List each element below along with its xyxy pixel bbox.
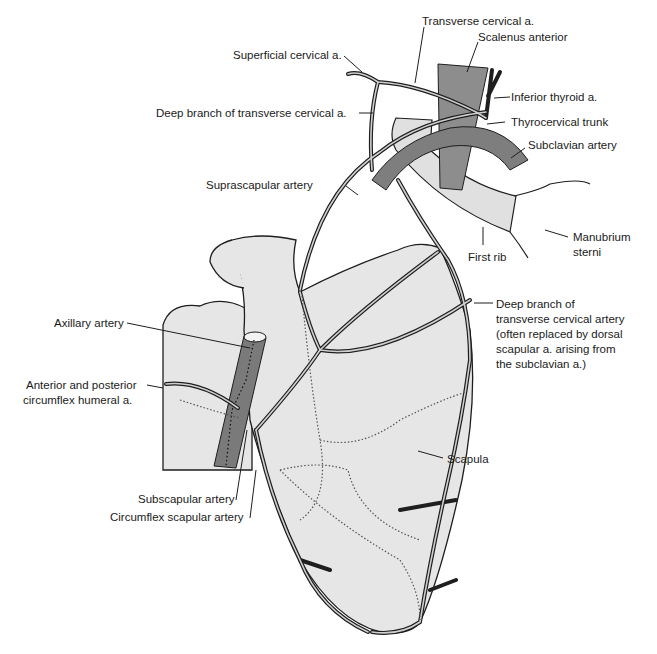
label-deep-branch-tca: Deep branch of transverse cervical a. — [156, 106, 346, 120]
label-suprascapular-artery: Suprascapular artery — [206, 178, 313, 192]
label-deep-branch-long-4: scapular a. arising from — [496, 342, 616, 356]
label-superficial-cervical: Superficial cervical a. — [233, 48, 342, 62]
label-transverse-cervical: Transverse cervical a. — [422, 14, 534, 28]
label-circumflex-humeral-1: Anterior and posterior — [26, 378, 137, 392]
label-axillary-artery: Axillary artery — [54, 316, 124, 330]
label-scapula: Scapula — [447, 452, 489, 466]
label-scalenus-anterior: Scalenus anterior — [478, 30, 568, 44]
label-manubrium: Manubrium — [573, 230, 631, 244]
label-circumflex-scapular-artery: Circumflex scapular artery — [110, 510, 244, 524]
label-deep-branch-long-3: (often replaced by dorsal — [496, 327, 623, 341]
label-circumflex-humeral-2: circumflex humeral a. — [23, 393, 132, 407]
anatomy-diagram: Transverse cervical a. Scalenus anterior… — [0, 0, 657, 654]
label-sterni: sterni — [573, 245, 601, 259]
label-subscapular-artery: Subscapular artery — [138, 492, 235, 506]
label-inferior-thyroid: Inferior thyroid a. — [511, 90, 597, 104]
label-deep-branch-long-1: Deep branch of — [496, 297, 575, 311]
label-thyrocervical-trunk: Thyrocervical trunk — [511, 115, 608, 129]
label-deep-branch-long-2: transverse cervical artery — [496, 312, 624, 326]
label-deep-branch-long-5: the subclavian a.) — [496, 357, 586, 371]
label-first-rib: First rib — [468, 250, 506, 264]
scapula — [225, 236, 473, 633]
label-subclavian-artery: Subclavian artery — [528, 138, 617, 152]
